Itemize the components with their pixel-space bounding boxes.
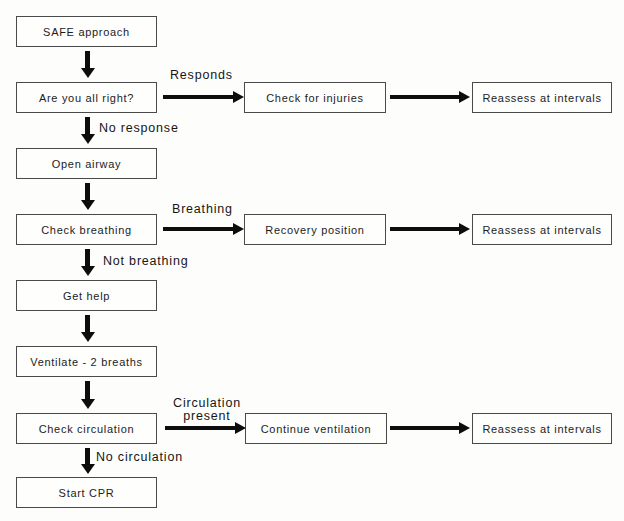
arrow-right-icon <box>163 90 244 104</box>
node-check-circulation: Check circulation <box>16 413 157 444</box>
arrow-right-icon <box>390 90 470 104</box>
edge-label-circulation-present-line2: present <box>171 410 243 423</box>
arrow-right-icon <box>390 222 470 236</box>
node-continue-ventilation: Continue ventilation <box>245 413 387 444</box>
node-ventilate-2-breaths: Ventilate - 2 breaths <box>16 346 157 377</box>
edge-label-no-response: No response <box>99 121 179 135</box>
arrow-down-icon <box>80 249 95 276</box>
arrow-down-icon <box>80 117 95 144</box>
edge-label-circulation-present: Circulation present <box>171 397 243 423</box>
node-reassess-at-intervals-1: Reassess at intervals <box>472 82 612 113</box>
node-start-cpr: Start CPR <box>16 477 157 508</box>
arrow-down-icon <box>80 183 95 210</box>
edge-label-breathing: Breathing <box>172 202 233 216</box>
node-check-for-injuries: Check for injuries <box>244 82 386 113</box>
node-check-breathing: Check breathing <box>16 214 157 245</box>
arrow-right-icon <box>163 222 244 236</box>
edge-label-responds: Responds <box>170 68 233 82</box>
flowchart-canvas: SAFE approach Are you all right? Open ai… <box>0 0 624 521</box>
node-recovery-position: Recovery position <box>244 214 386 245</box>
node-get-help: Get help <box>16 280 157 311</box>
arrow-down-icon <box>80 381 95 409</box>
node-open-airway: Open airway <box>16 148 157 179</box>
arrow-right-icon <box>165 421 246 435</box>
node-reassess-at-intervals-2: Reassess at intervals <box>472 214 612 245</box>
arrow-down-icon <box>80 51 95 78</box>
node-are-you-all-right: Are you all right? <box>16 82 157 113</box>
arrow-down-icon <box>80 448 95 474</box>
node-reassess-at-intervals-3: Reassess at intervals <box>472 413 612 444</box>
edge-label-not-breathing: Not breathing <box>103 254 188 268</box>
arrow-down-icon <box>80 315 95 342</box>
edge-label-no-circulation: No circulation <box>96 450 183 464</box>
arrow-right-icon <box>390 421 470 435</box>
node-safe-approach: SAFE approach <box>16 16 157 47</box>
